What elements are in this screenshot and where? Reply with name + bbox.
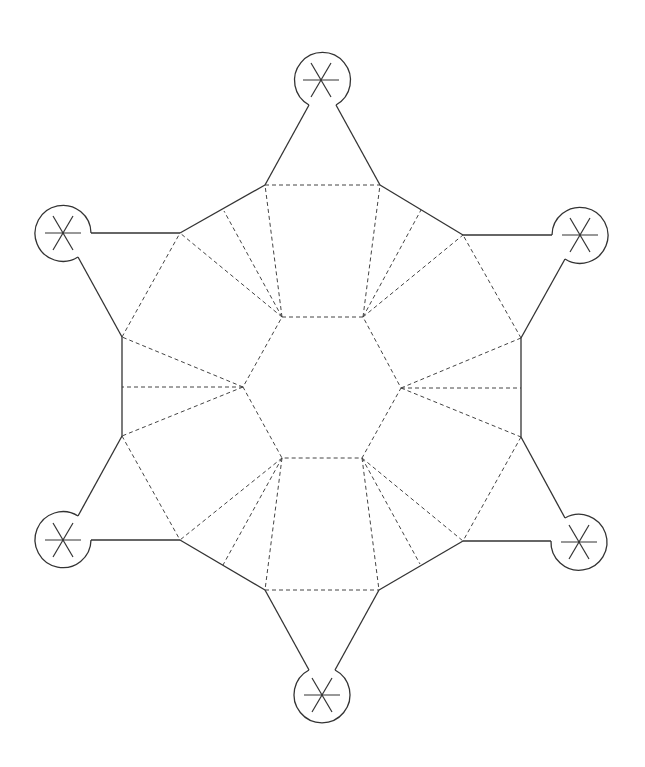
asterisk-icon xyxy=(45,523,81,557)
asterisk-icon xyxy=(561,525,597,559)
tab-bottom xyxy=(265,590,379,723)
asterisk-icon xyxy=(303,63,339,97)
radial-fold-lines xyxy=(122,185,521,590)
tab-bottom-left xyxy=(35,436,180,568)
papercraft-net-diagram xyxy=(0,0,645,767)
asterisk-icon xyxy=(304,678,340,712)
inner-hexagon xyxy=(243,317,401,458)
tab-top-right xyxy=(463,207,608,338)
outer-fold-edges xyxy=(122,185,521,590)
tab-bottom-right xyxy=(463,437,607,570)
tab-top xyxy=(265,52,380,185)
asterisk-icon xyxy=(562,218,598,252)
outer-cut-edges xyxy=(122,185,521,590)
asterisk-icon xyxy=(45,216,81,250)
tab-top-left xyxy=(35,205,180,337)
